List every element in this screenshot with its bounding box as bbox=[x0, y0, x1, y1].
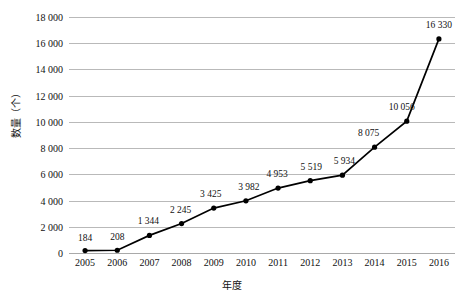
x-axis-tick-label: 2006 bbox=[107, 257, 127, 268]
data-point-label: 16 330 bbox=[426, 20, 452, 30]
data-point-label: 208 bbox=[110, 232, 124, 242]
data-point-marker bbox=[308, 178, 313, 183]
data-point-marker bbox=[147, 233, 152, 238]
y-axis-tick-label: 18 000 bbox=[36, 12, 64, 23]
data-point-marker bbox=[275, 185, 280, 190]
data-point-marker bbox=[340, 173, 345, 178]
y-axis-tick-label: 6 000 bbox=[41, 169, 64, 180]
y-axis-tick-label: 2 000 bbox=[41, 221, 64, 232]
data-point-label: 10 056 bbox=[389, 102, 415, 112]
x-axis-tick-label: 2007 bbox=[139, 257, 159, 268]
x-axis-tick-label: 2008 bbox=[172, 257, 192, 268]
data-point-label: 4 953 bbox=[266, 169, 287, 179]
data-point-label: 3 425 bbox=[200, 189, 221, 199]
x-axis-tick-label: 2009 bbox=[204, 257, 224, 268]
data-point-marker bbox=[436, 36, 441, 41]
gridline bbox=[69, 253, 455, 254]
data-point-label: 184 bbox=[78, 233, 92, 243]
x-axis-title: 年度 bbox=[0, 277, 464, 292]
data-point-label: 5 519 bbox=[301, 162, 322, 172]
x-axis-tick-label: 2005 bbox=[75, 257, 95, 268]
y-axis-tick-label: 12 000 bbox=[36, 90, 64, 101]
data-point-marker bbox=[115, 248, 120, 253]
y-axis-tick-label: 10 000 bbox=[36, 116, 64, 127]
y-axis-tick-label: 16 000 bbox=[36, 38, 64, 49]
data-point-label: 3 982 bbox=[238, 182, 259, 192]
data-point-marker bbox=[404, 119, 409, 124]
x-axis-tick-label: 2010 bbox=[236, 257, 256, 268]
data-point-marker bbox=[179, 221, 184, 226]
data-point-marker bbox=[372, 145, 377, 150]
data-point-label: 5 934 bbox=[334, 156, 355, 166]
y-axis-title: 数量（个） bbox=[8, 68, 23, 158]
x-axis-tick-label: 2011 bbox=[268, 257, 288, 268]
data-point-marker bbox=[82, 248, 87, 253]
x-axis-tick-label: 2013 bbox=[332, 257, 352, 268]
x-axis-tick-label: 2016 bbox=[429, 257, 449, 268]
x-axis-tick-label: 2015 bbox=[397, 257, 417, 268]
plot-area: 02 0004 0006 0008 00010 00012 00014 0001… bbox=[69, 17, 455, 253]
data-point-marker bbox=[211, 205, 216, 210]
line-chart: 数量（个） 02 0004 0006 0008 00010 00012 0001… bbox=[0, 0, 464, 302]
data-point-label: 2 245 bbox=[170, 205, 191, 215]
data-point-marker bbox=[243, 198, 248, 203]
data-series bbox=[69, 17, 455, 253]
y-axis-tick-label: 4 000 bbox=[41, 195, 64, 206]
data-point-label: 8 075 bbox=[358, 128, 379, 138]
y-axis-tick-label: 8 000 bbox=[41, 143, 64, 154]
y-axis-tick-label: 14 000 bbox=[36, 64, 64, 75]
data-point-label: 1 344 bbox=[138, 216, 159, 226]
y-axis-tick-label: 0 bbox=[58, 248, 63, 259]
x-axis-tick-label: 2014 bbox=[365, 257, 385, 268]
x-axis-tick-label: 2012 bbox=[300, 257, 320, 268]
